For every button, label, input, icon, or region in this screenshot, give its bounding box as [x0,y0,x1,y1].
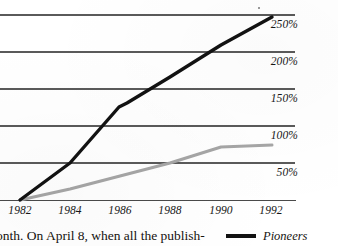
chart-legend: Pioneers [226,227,307,245]
xtick-label-1982: 1982 [0,203,43,217]
ytick-label-250: 250% [254,18,298,31]
ytick-label-100: 100% [254,129,298,142]
ytick-label-150: 150% [254,92,298,105]
xtick-label-1990: 1990 [198,203,244,217]
plot-area: 250% 200% 150% 100% 50% 1982 1984 1986 1… [0,0,300,206]
xtick-label-1988: 1988 [147,203,193,217]
ytick-label-200: 200% [254,55,298,68]
page-bottom-row: onth. On April 8, when all the publish- … [0,226,338,246]
body-paragraph-text: onth. On April 8, when all the publish- [0,226,206,245]
print-speck [258,7,260,9]
xtick-label-1986: 1986 [97,203,143,217]
ytick-label-50: 50% [254,166,298,179]
legend-swatch-pioneers [226,234,256,238]
xtick-label-1984: 1984 [47,203,93,217]
figure-line-chart: 250% 200% 150% 100% 50% 1982 1984 1986 1… [0,0,338,246]
legend-label-pioneers: Pioneers [263,229,307,243]
xtick-label-1992: 1992 [248,203,294,217]
series-line-pioneers [20,17,272,200]
